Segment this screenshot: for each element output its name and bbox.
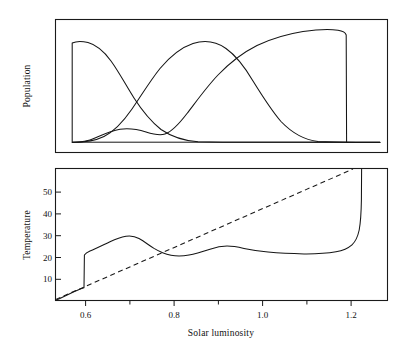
population-axis-label: Population bbox=[22, 64, 32, 107]
temperature-y-ticks bbox=[56, 192, 62, 279]
temperature-x-tick-labels: 0.6 0.8 1.0 1.2 bbox=[80, 310, 357, 320]
bare-planet-temperature-line bbox=[56, 169, 353, 299]
temperature-y-tick-labels: 10 20 30 40 50 bbox=[43, 187, 53, 284]
temperature-plot-frame bbox=[56, 169, 388, 301]
temperature-axis-label: Temperature bbox=[22, 210, 32, 260]
x-tick-label-1-0: 1.0 bbox=[257, 310, 269, 320]
population-plot-frame bbox=[56, 20, 388, 153]
solar-luminosity-axis-label: Solar luminosity bbox=[188, 328, 254, 338]
temperature-x-ticks bbox=[86, 301, 352, 307]
daisyworld-temperature-curve bbox=[56, 169, 362, 300]
x-tick-label-0-6: 0.6 bbox=[80, 310, 92, 320]
black-daisy-population-curve bbox=[72, 42, 380, 143]
y-tick-label-30: 30 bbox=[43, 231, 53, 241]
total-population-curve bbox=[72, 30, 346, 143]
population-panel: Population bbox=[22, 20, 388, 153]
y-tick-label-10: 10 bbox=[43, 274, 53, 284]
figure-canvas: Population 10 20 30 40 50 bbox=[0, 0, 404, 351]
y-tick-label-20: 20 bbox=[43, 253, 53, 263]
x-tick-label-0-8: 0.8 bbox=[168, 310, 180, 320]
y-tick-label-40: 40 bbox=[43, 209, 53, 219]
white-daisy-population-curve bbox=[72, 42, 380, 143]
daisyworld-figure: Population 10 20 30 40 50 bbox=[0, 0, 404, 351]
x-tick-label-1-2: 1.2 bbox=[345, 310, 356, 320]
temperature-panel: 10 20 30 40 50 0.6 0.8 1.0 1.2 bbox=[22, 169, 388, 339]
y-tick-label-50: 50 bbox=[43, 187, 53, 197]
